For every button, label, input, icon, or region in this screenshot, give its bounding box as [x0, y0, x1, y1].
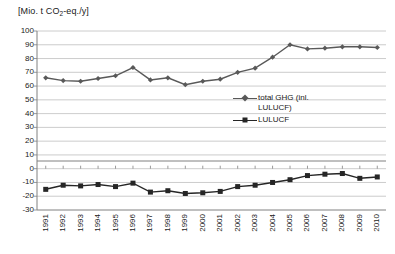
- legend-item-lulucf: LULUCF: [232, 115, 330, 125]
- data-point-marker-diamond: [78, 79, 83, 84]
- data-point-marker-diamond: [165, 75, 170, 80]
- data-point-marker-diamond: [305, 46, 310, 51]
- data-point-marker-diamond: [183, 82, 188, 87]
- data-point-marker-square: [270, 180, 275, 185]
- legend-label-lulucf: LULUCF: [258, 115, 289, 125]
- data-point-marker-square: [130, 181, 135, 186]
- legend-item-total-ghg: total GHG (inl. LULUCF): [232, 93, 330, 113]
- data-point-marker-square: [288, 177, 293, 182]
- data-point-marker-diamond: [61, 78, 66, 83]
- data-point-marker-square: [78, 183, 83, 188]
- data-point-marker-square: [200, 190, 205, 195]
- data-point-marker-square: [183, 191, 188, 196]
- legend-marker-diamond-icon: [232, 93, 258, 103]
- data-point-marker-square: [113, 184, 118, 189]
- data-point-marker-diamond: [113, 73, 118, 78]
- series-line-total-ghg: [46, 45, 378, 85]
- data-point-marker-diamond: [235, 70, 240, 75]
- data-point-marker-square: [61, 183, 66, 188]
- series-line-lulucf: [46, 174, 378, 194]
- data-point-marker-square: [375, 174, 380, 179]
- data-point-marker-diamond: [200, 79, 205, 84]
- chart-legend: total GHG (inl. LULUCF) LULUCF: [232, 93, 330, 127]
- chart-container: [Mio. t CO2-eq./y] 100908070605040302010…: [0, 0, 395, 254]
- data-point-marker-square: [340, 171, 345, 176]
- data-point-marker-square: [148, 190, 153, 195]
- legend-marker-square-icon: [232, 115, 258, 125]
- plot-area: [0, 0, 395, 254]
- data-point-marker-square: [322, 172, 327, 177]
- data-point-marker-diamond: [322, 46, 327, 51]
- gridlines: [34, 31, 386, 210]
- data-point-marker-diamond: [375, 45, 380, 50]
- legend-label-total-ghg: total GHG (inl. LULUCF): [258, 93, 330, 113]
- x-axis-tick-marks: [46, 166, 378, 169]
- data-point-marker-square: [357, 176, 362, 181]
- data-point-marker-diamond: [95, 76, 100, 81]
- data-point-marker-square: [235, 184, 240, 189]
- data-point-marker-square: [165, 188, 170, 193]
- data-point-marker-square: [43, 187, 48, 192]
- data-point-marker-square: [305, 173, 310, 178]
- data-point-marker-diamond: [43, 75, 48, 80]
- data-point-marker-square: [253, 183, 258, 188]
- data-point-marker-square: [218, 189, 223, 194]
- data-point-marker-square: [96, 182, 101, 187]
- data-point-marker-diamond: [218, 77, 223, 82]
